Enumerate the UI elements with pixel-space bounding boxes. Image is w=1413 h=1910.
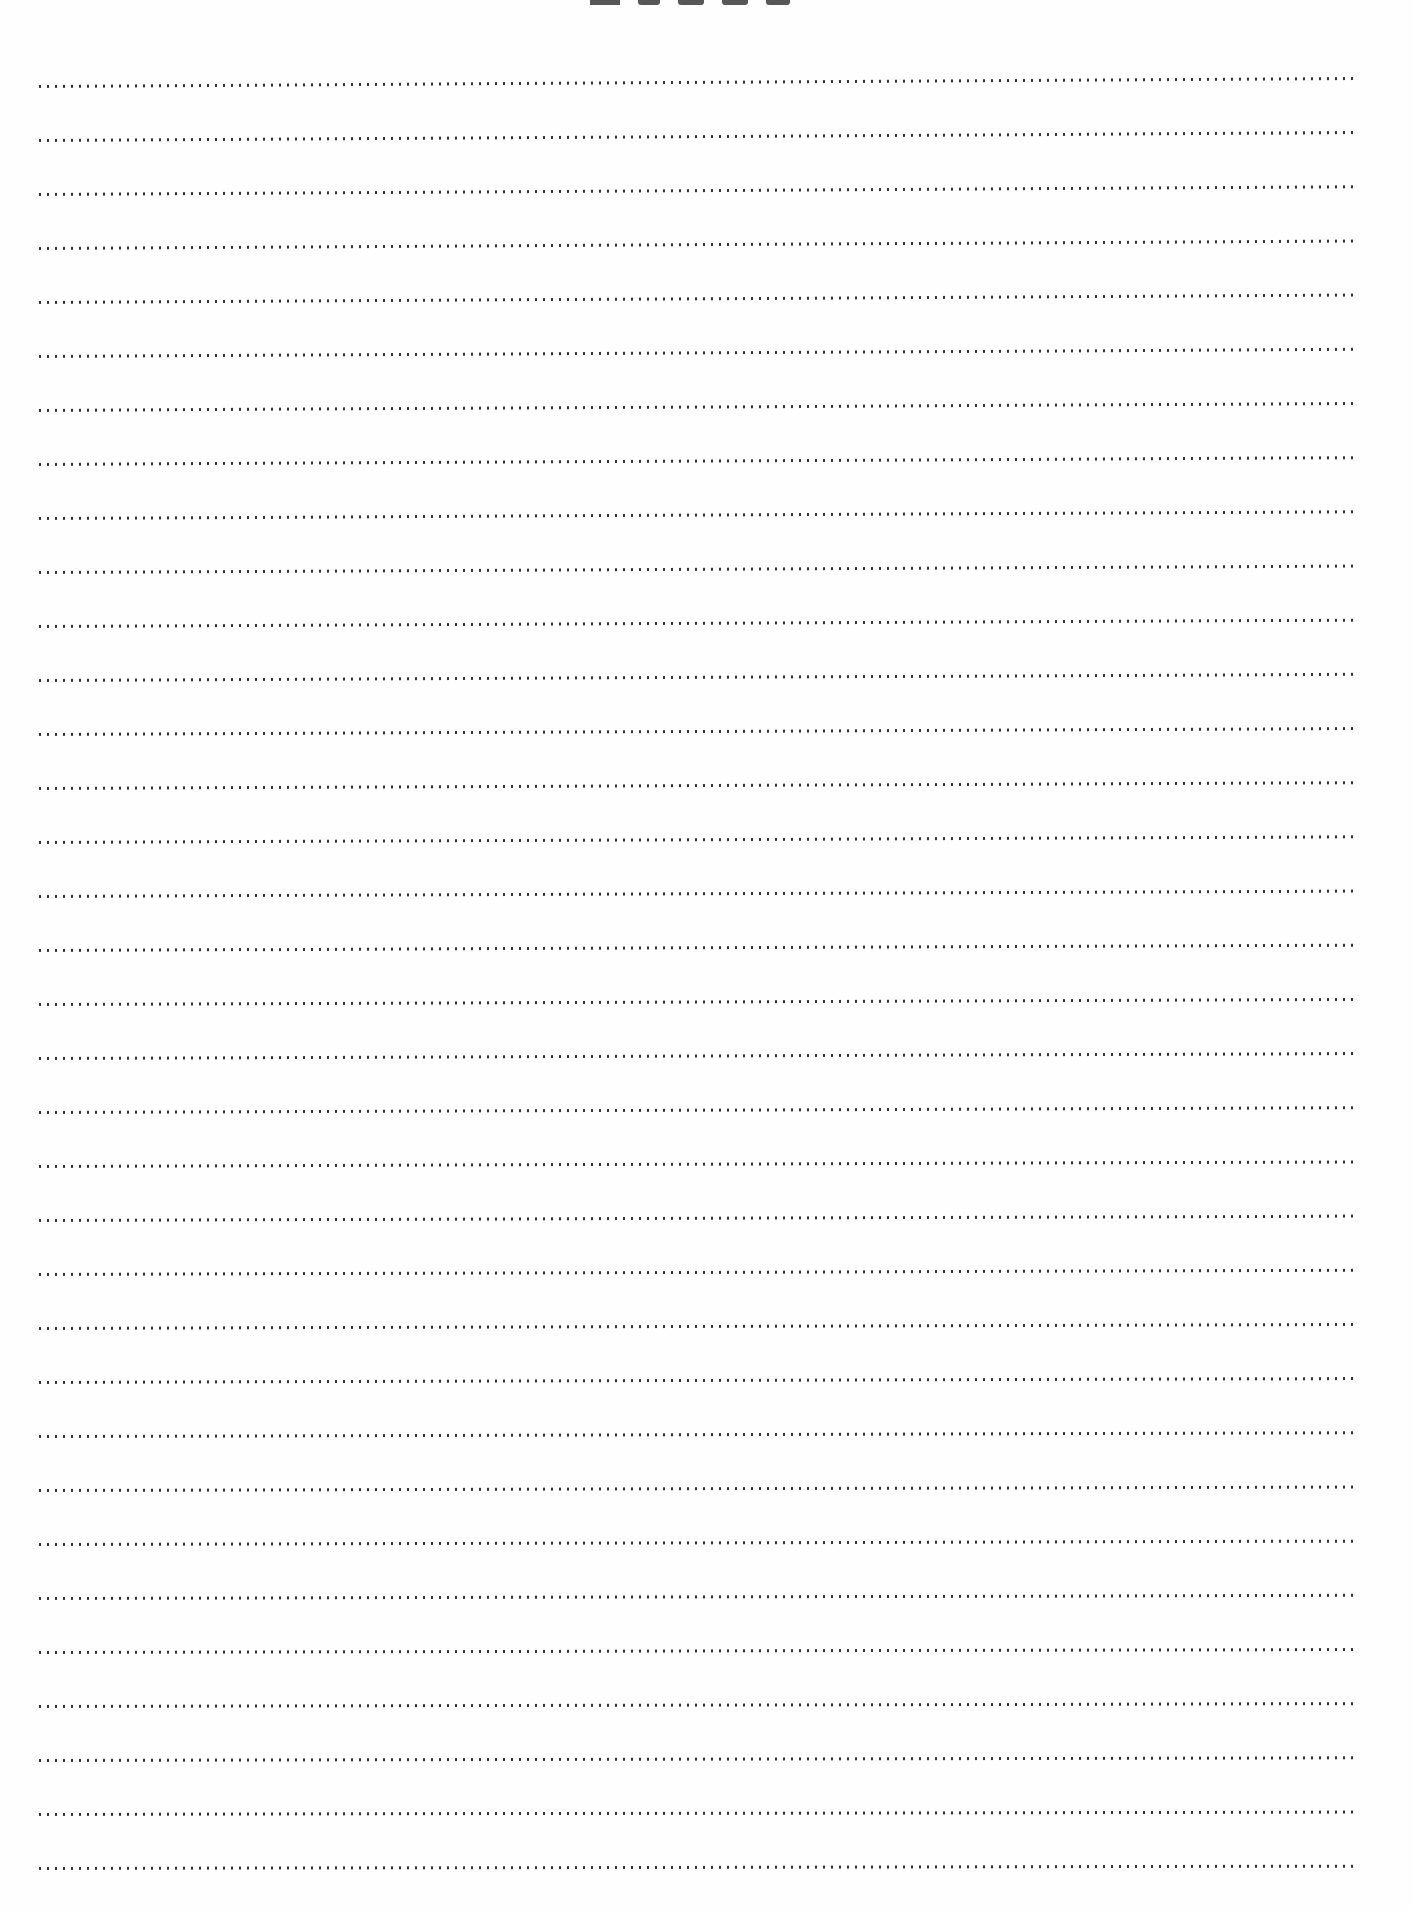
dotted-writing-line: [36, 239, 1358, 250]
dotted-writing-line: [36, 889, 1358, 897]
dotted-writing-line: [36, 1106, 1358, 1114]
dotted-writing-line: [36, 618, 1358, 627]
dotted-writing-line: [36, 510, 1358, 520]
dotted-writing-line: [36, 781, 1358, 790]
dotted-writing-line: [36, 1052, 1358, 1060]
dotted-writing-line: [36, 1486, 1358, 1493]
dotted-writing-line: [36, 1432, 1358, 1439]
dotted-writing-line: [36, 347, 1358, 357]
dotted-writing-line: [36, 402, 1358, 412]
dotted-writing-line: [36, 564, 1358, 574]
dotted-writing-line: [36, 944, 1358, 952]
dotted-writing-line: [36, 1757, 1358, 1763]
dotted-writing-line: [36, 1540, 1358, 1546]
dotted-writing-line: [36, 1703, 1358, 1709]
dotted-writing-line: [36, 76, 1358, 87]
dotted-writing-line: [36, 293, 1358, 303]
dotted-writing-line: [36, 185, 1358, 196]
dotted-writing-line: [36, 131, 1358, 142]
dotted-writing-line: [36, 1811, 1358, 1816]
dotted-writing-line: [36, 673, 1358, 682]
dotted-writing-line: [36, 998, 1358, 1006]
dotted-writing-line: [36, 456, 1358, 466]
notes-page: [0, 0, 1413, 1910]
dotted-writing-line: [36, 835, 1358, 844]
dotted-writing-line: [36, 1377, 1358, 1384]
dotted-writing-line: [36, 1323, 1358, 1330]
dotted-writing-line: [36, 1594, 1358, 1600]
dotted-writing-line: [36, 1269, 1358, 1276]
ruled-lines: [0, 0, 1413, 1910]
dotted-writing-line: [36, 1865, 1358, 1870]
dotted-writing-line: [36, 1648, 1358, 1654]
dotted-writing-line: [36, 1215, 1358, 1222]
dotted-writing-line: [36, 1161, 1358, 1169]
dotted-writing-line: [36, 727, 1358, 736]
